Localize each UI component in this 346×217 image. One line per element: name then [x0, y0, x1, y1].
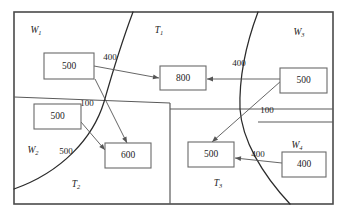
flow-line-w1-t2 [95, 79, 127, 143]
flow-label-w3-t1: 400 [232, 58, 246, 68]
node-w4-supply: 400 [282, 152, 326, 177]
arrowhead-w3-t1 [207, 77, 213, 82]
node-value-t3-demand: 500 [204, 149, 219, 159]
node-w1-supply: 500 [44, 53, 94, 79]
region-label-w1: W1 [30, 25, 41, 36]
flow-label-w1-t2: 100 [80, 98, 94, 108]
node-t3-demand: 500 [188, 142, 234, 167]
node-w2-supply: 500 [34, 104, 81, 129]
flow-label-w3-t3: 100 [260, 105, 274, 115]
flow-line-w1-t1 [94, 66, 159, 78]
node-t1-demand: 800 [160, 66, 206, 90]
node-value-w2-supply: 500 [50, 111, 65, 121]
flow-label-w2-t2: 500 [59, 146, 73, 156]
node-value-t2-demand: 600 [121, 150, 136, 160]
node-w3-supply: 500 [280, 68, 327, 93]
region-label-w2: W2 [27, 145, 39, 156]
region-label-w4: W4 [291, 140, 303, 151]
node-value-w4-supply: 400 [297, 159, 312, 169]
flow-label-w4-t3: 400 [251, 149, 265, 159]
region-label-t1: T1 [155, 25, 164, 36]
node-value-w3-supply: 500 [296, 75, 311, 85]
figure-container: 500 800 500 500 600 500 [0, 0, 346, 217]
flow-w3-to-t1 [207, 77, 280, 82]
region-label-t3: T3 [214, 178, 223, 189]
flow-w1-to-t1 [94, 66, 159, 80]
region-label-w3: W3 [293, 27, 304, 38]
region-label-t2: T2 [72, 179, 81, 190]
warehouse-territory-diagram: 500 800 500 500 600 500 [0, 0, 346, 217]
node-value-t1-demand: 800 [176, 73, 191, 83]
node-value-w1-supply: 500 [62, 61, 77, 71]
arrowhead-w4-t3 [235, 156, 241, 161]
flow-label-w1-t1: 400 [103, 52, 117, 62]
value-boxes: 500 800 500 500 600 500 [34, 53, 327, 177]
node-t2-demand: 600 [105, 143, 151, 168]
